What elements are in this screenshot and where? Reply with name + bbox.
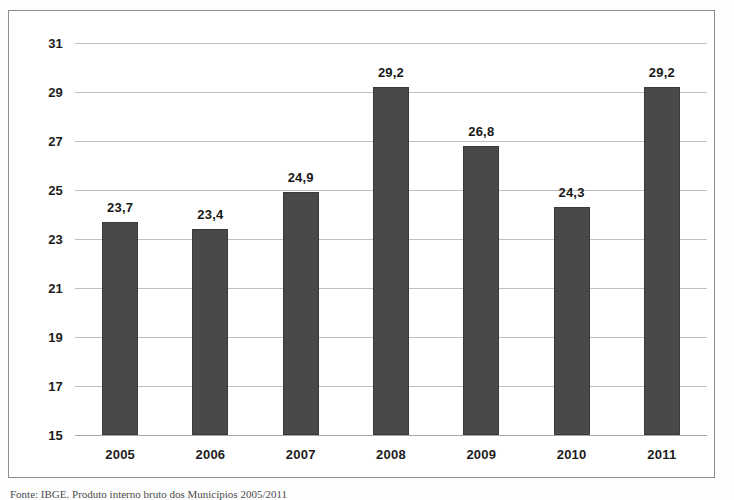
bar[interactable] [554, 207, 590, 435]
bar-slot: 26,82009 [436, 43, 526, 435]
y-axis-tick-label: 27 [48, 134, 63, 149]
plot-area: 312927252321191715 23,7200523,4200624,92… [75, 43, 707, 435]
bar-value-label: 29,2 [378, 65, 404, 80]
x-axis-tick-label: 2010 [557, 447, 587, 462]
bar-value-label: 23,7 [107, 200, 133, 215]
bar[interactable] [644, 87, 680, 435]
bar-slot: 23,72005 [75, 43, 165, 435]
x-axis-tick-label: 2008 [376, 447, 406, 462]
bars-group: 23,7200523,4200624,9200729,2200826,82009… [75, 43, 707, 435]
bar-value-label: 23,4 [197, 207, 223, 222]
gridline [75, 435, 707, 436]
source-caption: Fonte: IBGE. Produto interno bruto dos M… [10, 488, 287, 500]
y-axis-tick-label: 31 [48, 36, 63, 51]
bar-slot: 29,22011 [617, 43, 707, 435]
bar-slot: 24,32010 [526, 43, 616, 435]
x-axis-tick-label: 2007 [286, 447, 316, 462]
y-axis-tick-label: 21 [48, 281, 63, 296]
bar[interactable] [283, 192, 319, 435]
bar-value-label: 24,9 [288, 170, 314, 185]
bar-slot: 23,42006 [165, 43, 255, 435]
y-axis-tick-label: 17 [48, 379, 63, 394]
y-axis-tick-label: 23 [48, 232, 63, 247]
bar[interactable] [192, 229, 228, 435]
y-axis-tick-label: 15 [48, 428, 63, 443]
y-axis-tick-label: 29 [48, 85, 63, 100]
bar-slot: 24,92007 [256, 43, 346, 435]
bar[interactable] [463, 146, 499, 435]
bar-value-label: 29,2 [649, 65, 675, 80]
x-axis-tick-label: 2009 [466, 447, 496, 462]
bar-value-label: 24,3 [559, 185, 585, 200]
y-axis-tick-label: 19 [48, 330, 63, 345]
bar[interactable] [102, 222, 138, 435]
x-axis-tick-label: 2005 [105, 447, 135, 462]
y-axis-tick-label: 25 [48, 183, 63, 198]
bar-value-label: 26,8 [468, 124, 494, 139]
x-axis-tick-label: 2011 [647, 447, 676, 462]
bar[interactable] [373, 87, 409, 435]
chart-frame: 312927252321191715 23,7200523,4200624,92… [8, 10, 715, 478]
bar-slot: 29,22008 [346, 43, 436, 435]
x-axis-tick-label: 2006 [196, 447, 226, 462]
